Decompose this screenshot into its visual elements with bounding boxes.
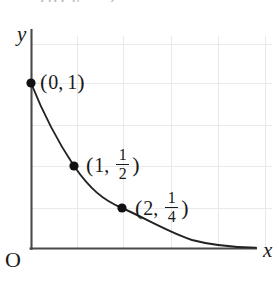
paren-close: ) <box>77 71 84 93</box>
figure-container: (b) y = 2 y x <box>0 0 279 285</box>
y-axis-label: y <box>17 24 26 45</box>
coordinate-x: 1, <box>94 155 109 175</box>
graph-canvas <box>0 0 279 285</box>
origin-label: O <box>5 249 21 271</box>
point-label-1-one-half: ( 1, 1 2 ) <box>86 147 140 183</box>
point-1-one-half <box>69 161 78 170</box>
fraction-numerator: 1 <box>166 190 178 207</box>
fraction-denominator: 2 <box>117 165 129 182</box>
paren-open: ( <box>40 71 47 93</box>
fraction-denominator: 4 <box>166 208 178 225</box>
coordinate-x: 2, <box>143 198 158 218</box>
fraction-one-quarter: 1 4 <box>165 190 178 226</box>
x-axis-label: x <box>263 240 272 261</box>
point-label-0-1: ( 0, 1 ) <box>40 71 85 93</box>
fraction-numerator: 1 <box>117 147 129 164</box>
point-label-2-one-quarter: ( 2, 1 4 ) <box>135 190 189 226</box>
point-2-one-quarter <box>117 203 126 212</box>
data-points <box>26 78 126 212</box>
coordinate-y: 1 <box>67 72 77 92</box>
point-0-1 <box>26 78 35 87</box>
paren-close: ) <box>132 154 139 176</box>
fraction-one-half: 1 2 <box>116 147 129 183</box>
coordinate-x: 0, <box>48 72 63 92</box>
paren-open: ( <box>86 154 93 176</box>
paren-open: ( <box>135 197 142 219</box>
paren-close: ) <box>181 197 188 219</box>
